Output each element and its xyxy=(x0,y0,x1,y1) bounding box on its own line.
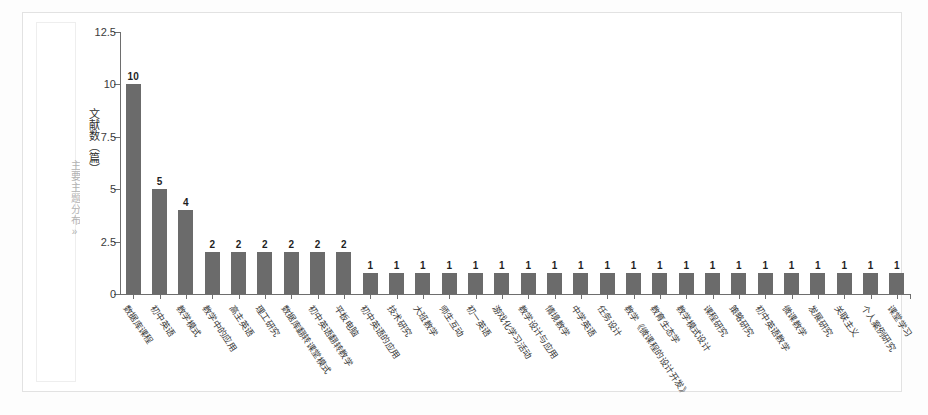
bar-slot[interactable]: 1 xyxy=(541,32,567,294)
bar-value-label: 1 xyxy=(383,260,409,271)
bar-slot[interactable]: 1 xyxy=(778,32,804,294)
x-tick-mark xyxy=(844,294,845,299)
bar[interactable] xyxy=(705,273,720,294)
x-tick-mark xyxy=(318,294,319,299)
bar-value-label: 1 xyxy=(805,260,831,271)
x-tick-mark xyxy=(423,294,424,299)
x-tick-mark xyxy=(910,294,911,299)
bar-value-label: 1 xyxy=(489,260,515,271)
bar-slot[interactable]: 1 xyxy=(884,32,910,294)
bar-slot[interactable]: 2 xyxy=(199,32,225,294)
bar[interactable] xyxy=(257,252,272,294)
bar[interactable] xyxy=(152,189,167,294)
bar[interactable] xyxy=(521,273,536,294)
bar-value-label: 10 xyxy=(120,71,146,82)
bar-value-label: 1 xyxy=(594,260,620,271)
x-tick-mark xyxy=(133,294,134,299)
bar-slot[interactable]: 10 xyxy=(120,32,146,294)
bar[interactable] xyxy=(494,273,509,294)
x-tick-mark xyxy=(239,294,240,299)
bar-slot[interactable]: 1 xyxy=(831,32,857,294)
bar-slot[interactable]: 1 xyxy=(594,32,620,294)
bar-slot[interactable]: 2 xyxy=(304,32,330,294)
bar-slot[interactable]: 1 xyxy=(436,32,462,294)
x-tick-mark xyxy=(291,294,292,299)
bar[interactable] xyxy=(573,273,588,294)
bar[interactable] xyxy=(784,273,799,294)
bar-slot[interactable]: 1 xyxy=(647,32,673,294)
bar-slot[interactable]: 1 xyxy=(620,32,646,294)
x-tick-mark xyxy=(871,294,872,299)
x-tick-mark xyxy=(555,294,556,299)
bar[interactable] xyxy=(758,273,773,294)
bar-slot[interactable]: 1 xyxy=(752,32,778,294)
x-tick-mark xyxy=(713,294,714,299)
bar-slot[interactable]: 1 xyxy=(568,32,594,294)
bar[interactable] xyxy=(468,273,483,294)
bar-slot[interactable]: 1 xyxy=(462,32,488,294)
x-tick-label: 任务设计 xyxy=(594,302,625,339)
x-tick-mark xyxy=(765,294,766,299)
y-tick-label: 10 xyxy=(104,78,116,90)
bar[interactable] xyxy=(863,273,878,294)
bar-value-label: 1 xyxy=(778,260,804,271)
bar-slot[interactable]: 1 xyxy=(489,32,515,294)
x-tick-mark xyxy=(660,294,661,299)
y-tick-label: 7.5 xyxy=(101,131,116,143)
bar[interactable] xyxy=(547,273,562,294)
bar-value-label: 2 xyxy=(331,239,357,250)
bar[interactable] xyxy=(679,273,694,294)
bar[interactable] xyxy=(442,273,457,294)
bar-slot[interactable]: 1 xyxy=(515,32,541,294)
bar[interactable] xyxy=(178,210,193,294)
bar[interactable] xyxy=(731,273,746,294)
bar[interactable] xyxy=(600,273,615,294)
bar-slot[interactable]: 1 xyxy=(673,32,699,294)
bar[interactable] xyxy=(126,84,141,294)
bar-slot[interactable]: 2 xyxy=(331,32,357,294)
bar-slot[interactable]: 1 xyxy=(383,32,409,294)
bar[interactable] xyxy=(837,273,852,294)
x-tick-label: 师生互动 xyxy=(436,302,467,339)
bar-slot[interactable]: 1 xyxy=(410,32,436,294)
x-tick-mark xyxy=(397,294,398,299)
bar-value-label: 2 xyxy=(252,239,278,250)
bar-value-label: 1 xyxy=(857,260,883,271)
bar-value-label: 1 xyxy=(436,260,462,271)
bar[interactable] xyxy=(810,273,825,294)
x-tick-mark xyxy=(160,294,161,299)
bar-slot[interactable]: 2 xyxy=(278,32,304,294)
bar[interactable] xyxy=(231,252,246,294)
bar-slot[interactable]: 1 xyxy=(357,32,383,294)
bar-value-label: 1 xyxy=(410,260,436,271)
bar-value-label: 1 xyxy=(673,260,699,271)
bar[interactable] xyxy=(284,252,299,294)
bar[interactable] xyxy=(205,252,220,294)
y-tick-label: 2.5 xyxy=(101,236,116,248)
bar-value-label: 1 xyxy=(647,260,673,271)
bar-value-label: 1 xyxy=(884,260,910,271)
bar-slot[interactable]: 1 xyxy=(726,32,752,294)
bar-chart: 文献数（篇） 02.557.51012.5 105422222211111111… xyxy=(0,0,928,415)
bar[interactable] xyxy=(363,273,378,294)
bar-slot[interactable]: 1 xyxy=(857,32,883,294)
bar[interactable] xyxy=(310,252,325,294)
x-tick-mark xyxy=(634,294,635,299)
bar-slot[interactable]: 5 xyxy=(146,32,172,294)
bar[interactable] xyxy=(389,273,404,294)
bar[interactable] xyxy=(652,273,667,294)
plot-area: 1054222222111111111111111111111 xyxy=(120,32,910,294)
bar[interactable] xyxy=(626,273,641,294)
bar-slot[interactable]: 2 xyxy=(252,32,278,294)
bar-slot[interactable]: 2 xyxy=(225,32,251,294)
bar[interactable] xyxy=(336,252,351,294)
bar-value-label: 1 xyxy=(620,260,646,271)
bar[interactable] xyxy=(889,273,904,294)
bar-value-label: 1 xyxy=(541,260,567,271)
bar-slot[interactable]: 4 xyxy=(173,32,199,294)
bar[interactable] xyxy=(415,273,430,294)
bar-slot[interactable]: 1 xyxy=(699,32,725,294)
bar-value-label: 2 xyxy=(278,239,304,250)
x-tick-label: 关联主义 xyxy=(831,302,862,339)
bar-slot[interactable]: 1 xyxy=(805,32,831,294)
